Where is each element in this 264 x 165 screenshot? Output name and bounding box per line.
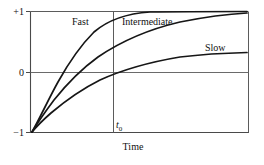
inversion-recovery-figure: +1 0 −1 Fast Intermediate Slow t0 Time — [0, 0, 264, 165]
t0-label-subscript: 0 — [119, 125, 123, 133]
ytick-label-plus-one: +1 — [13, 6, 24, 17]
curve-label-fast: Fast — [72, 16, 89, 27]
curve-label-intermediate: Intermediate — [122, 16, 173, 27]
curve-label-slow: Slow — [205, 42, 226, 53]
ytick-label-zero: 0 — [19, 67, 24, 78]
ytick-label-minus-one: −1 — [13, 127, 24, 138]
recovery-curves-chart: +1 0 −1 Fast Intermediate Slow t0 Time — [0, 0, 264, 165]
x-axis-label: Time — [123, 141, 144, 152]
